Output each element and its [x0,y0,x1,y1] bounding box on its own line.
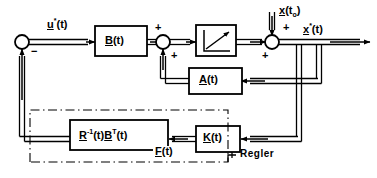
wire-tap-to-K [250,44,302,142]
sign-sum2-plus-bottom: + [171,50,177,61]
sign-sum3-plus-bottom: + [262,50,268,61]
block-label-K: K(t) [203,132,222,143]
sign-sum1-minus: − [31,46,37,57]
summing-junction-3 [265,35,279,49]
summing-junction-2 [156,35,170,49]
sign-sum3-plus-top: + [283,22,289,33]
summing-junction-1 [15,35,29,49]
block-diagram-canvas: B(t) A(t) R-1(t)BT(t) K(t) u*(t) x(to) x… [0,0,377,178]
block-label-B: B(t) [105,35,124,46]
annotation-regler: Regler [240,149,274,159]
signal-label-output-x: x*(t) [303,22,323,35]
wire-sum1-to-B [29,40,88,45]
wire-tap-to-A [250,44,322,84]
sign-sum2-plus-top: + [155,22,161,33]
block-label-RB: R-1(t)BT(t) [79,128,127,141]
signal-label-F: F(t) [153,146,175,157]
signal-label-initial-state: x(to) [279,5,300,18]
signal-label-input-u: u*(t) [47,17,67,30]
wire-RB-to-sum1 [20,56,71,142]
block-label-A: A(t) [199,74,218,85]
regler-leader-line [228,152,236,162]
